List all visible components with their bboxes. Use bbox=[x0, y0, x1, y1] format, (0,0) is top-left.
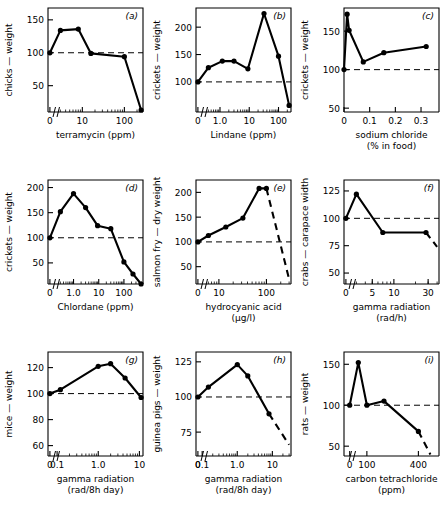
data-point bbox=[235, 362, 240, 367]
data-point bbox=[139, 281, 144, 286]
y-tick-label: 200 bbox=[175, 23, 192, 33]
y-tick-label: 150 bbox=[175, 50, 192, 60]
y-tick-label: 100 bbox=[175, 392, 192, 402]
y-tick-label: 80 bbox=[33, 415, 45, 425]
data-point bbox=[347, 28, 352, 33]
chart-panel-f: 5075100125051030(f)gamma radiation(rad/h… bbox=[296, 172, 442, 346]
y-tick-label: 100 bbox=[323, 401, 340, 411]
y-axis-title: salmon fry — dry weight bbox=[152, 176, 162, 287]
data-point bbox=[139, 107, 144, 112]
y-tick-label: 125 bbox=[323, 186, 340, 196]
y-tick-label: 50 bbox=[33, 258, 45, 268]
data-point bbox=[361, 59, 366, 64]
data-point bbox=[364, 403, 369, 408]
y-tick-label: 100 bbox=[323, 65, 340, 75]
data-point bbox=[416, 429, 421, 434]
plot-frame bbox=[196, 180, 291, 284]
panel-letter: (h) bbox=[273, 355, 286, 365]
data-point bbox=[123, 375, 128, 380]
data-point bbox=[381, 50, 386, 55]
panel-letter: (a) bbox=[125, 11, 138, 21]
chart-panel-c: 5010015000.10.20.3(c)sodium chloride(% i… bbox=[296, 0, 442, 174]
data-point bbox=[347, 403, 352, 408]
data-point bbox=[96, 364, 101, 369]
data-point bbox=[47, 391, 52, 396]
x-tick-label: 10 bbox=[244, 116, 256, 126]
data-line bbox=[50, 29, 141, 110]
data-point bbox=[95, 223, 100, 228]
chart-panel-a: 50100150010100(a)terramycin (ppm)chicks … bbox=[0, 0, 147, 174]
y-axis-title: crickets — weight bbox=[300, 20, 310, 100]
y-axis-title: crickets — weight bbox=[4, 192, 14, 272]
y-tick-label: 75 bbox=[329, 241, 340, 251]
y-tick-label: 50 bbox=[329, 268, 341, 278]
data-point bbox=[424, 44, 429, 49]
panel-letter: (b) bbox=[273, 11, 286, 21]
data-point bbox=[343, 216, 348, 221]
x-tick-label: 100 bbox=[270, 116, 287, 126]
x-axis-title: Chlordane (ppm) bbox=[57, 302, 133, 312]
x-axis-subtitle: (rad/h) bbox=[376, 313, 407, 323]
y-axis-title: rats — weight bbox=[300, 372, 310, 435]
data-point bbox=[245, 66, 250, 71]
y-tick-label: 50 bbox=[181, 262, 193, 272]
x-axis-subtitle: (rad/8h day) bbox=[68, 485, 124, 495]
x-tick-label: 1.0 bbox=[213, 116, 228, 126]
data-point bbox=[345, 12, 350, 17]
data-point bbox=[130, 271, 135, 276]
y-tick-label: 150 bbox=[323, 27, 340, 37]
panel-letter: (d) bbox=[125, 183, 138, 193]
x-tick-label: 0.2 bbox=[388, 116, 402, 126]
x-tick-label: 30 bbox=[422, 288, 434, 298]
y-tick-label: 120 bbox=[27, 363, 44, 373]
x-tick-label: 100 bbox=[116, 116, 133, 126]
y-axis-title: crickets — weight bbox=[152, 20, 162, 100]
x-axis-title: hydrocyanic acid bbox=[205, 302, 281, 312]
y-axis-title: mice — weight bbox=[4, 370, 14, 437]
dose-response-figure: 50100150010100(a)terramycin (ppm)chicks … bbox=[0, 0, 442, 521]
x-tick-label: 0 bbox=[195, 116, 201, 126]
data-point bbox=[58, 28, 63, 33]
x-tick-label: 10 bbox=[388, 288, 400, 298]
x-axis-title: gamma radiation bbox=[205, 474, 282, 484]
y-tick-label: 100 bbox=[175, 237, 192, 247]
panel-letter: (e) bbox=[273, 183, 286, 193]
data-point bbox=[354, 192, 359, 197]
chart-panel-i: 501001500100400(i)carbon tetrachloride(p… bbox=[296, 344, 442, 518]
x-axis-title: Lindane (ppm) bbox=[211, 130, 277, 140]
data-point bbox=[71, 191, 76, 196]
chart-panel-h: 7510012500.11.010(h)gamma radiation(rad/… bbox=[148, 344, 295, 518]
data-line-extrapolated bbox=[418, 431, 430, 454]
data-line bbox=[344, 14, 426, 69]
y-tick-label: 200 bbox=[27, 183, 44, 193]
y-tick-label: 125 bbox=[175, 357, 192, 367]
data-point bbox=[47, 235, 52, 240]
data-point bbox=[261, 11, 266, 16]
data-point bbox=[206, 233, 211, 238]
chart-panel-e: 50100150200010100(e)hydrocyanic acid(µg/… bbox=[148, 172, 295, 346]
data-point bbox=[195, 239, 200, 244]
x-axis-title: gamma radiation bbox=[353, 302, 430, 312]
data-point bbox=[380, 230, 385, 235]
data-line bbox=[198, 14, 289, 106]
x-tick-label: 10 bbox=[134, 460, 146, 470]
panel-letter: (f) bbox=[424, 183, 434, 193]
y-tick-label: 100 bbox=[27, 233, 44, 243]
chart-panel-g: 608010012000.11.010(g)gamma radiation(ra… bbox=[0, 344, 147, 518]
x-tick-label: 0 bbox=[47, 116, 53, 126]
plot-frame bbox=[196, 8, 291, 112]
y-axis-title: guinea pigs — weight bbox=[152, 355, 162, 453]
data-point bbox=[341, 67, 346, 72]
y-tick-label: 100 bbox=[175, 77, 192, 87]
data-point bbox=[287, 103, 292, 108]
x-tick-label: 10 bbox=[213, 288, 225, 298]
data-point bbox=[58, 209, 63, 214]
x-axis-title: gamma radiation bbox=[57, 474, 134, 484]
data-point bbox=[88, 51, 93, 56]
data-point bbox=[381, 399, 386, 404]
y-axis-title: chicks — weight bbox=[4, 23, 14, 97]
data-line bbox=[350, 363, 419, 432]
y-tick-label: 50 bbox=[329, 104, 341, 114]
plot-frame bbox=[48, 8, 143, 112]
x-tick-label: 0 bbox=[341, 116, 347, 126]
